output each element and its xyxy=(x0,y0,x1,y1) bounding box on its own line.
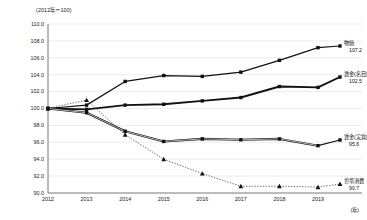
data-point-marker xyxy=(201,75,204,78)
series-end-value: 107.2 xyxy=(344,47,362,54)
data-point-marker xyxy=(85,108,88,111)
x-axis-unit-label: (年) xyxy=(350,206,359,214)
y-axis-tick-label: 104.0 xyxy=(18,72,44,78)
series-end-value: 90.7 xyxy=(344,185,364,192)
series-end-label: 物価107.2 xyxy=(344,40,362,53)
x-axis-tick-label: 2019 xyxy=(301,196,335,202)
series-end-label: 世帯消費90.7 xyxy=(344,178,364,191)
series-end-label: 賃金(名目)102.5 xyxy=(344,71,367,84)
series-4 xyxy=(46,98,343,189)
y-axis-tick-label: 90.0 xyxy=(18,190,44,196)
x-axis-tick-label: 2015 xyxy=(147,196,181,202)
data-point-marker xyxy=(239,70,242,73)
y-axis-tick-label: 106.0 xyxy=(18,55,44,61)
data-point-marker xyxy=(201,137,204,140)
data-point-marker xyxy=(238,184,243,188)
x-axis-tick-label: 2017 xyxy=(224,196,258,202)
data-point-marker xyxy=(201,99,204,102)
data-point-marker xyxy=(162,74,165,77)
series-name: 賃金(実質) xyxy=(344,134,367,141)
data-point-marker xyxy=(84,98,89,102)
data-point-marker xyxy=(162,103,165,106)
end-point-marker xyxy=(338,138,341,141)
series-name: 賃金(名目) xyxy=(344,71,367,78)
end-point-marker xyxy=(338,44,341,47)
series-3 xyxy=(46,107,341,148)
data-point-marker xyxy=(278,137,281,140)
data-point-marker xyxy=(162,140,165,143)
series-end-label: 賃金(実質)95.6 xyxy=(344,134,367,147)
end-point-marker xyxy=(338,182,343,186)
data-point-marker xyxy=(85,103,88,106)
series-1 xyxy=(46,44,341,110)
y-axis-tick-label: 94.0 xyxy=(18,156,44,162)
data-point-marker xyxy=(239,96,242,99)
data-point-marker xyxy=(200,171,205,175)
x-axis-tick-label: 2014 xyxy=(108,196,142,202)
y-axis-tick-label: 92.0 xyxy=(18,173,44,179)
x-axis-tick-label: 2013 xyxy=(70,196,104,202)
data-point-marker xyxy=(278,85,281,88)
series-end-value: 102.5 xyxy=(344,78,367,85)
data-point-marker xyxy=(239,138,242,141)
series-2 xyxy=(46,75,341,111)
data-point-marker xyxy=(85,111,88,114)
y-axis-tick-label: 110.0 xyxy=(18,21,44,27)
y-axis-tick-label: 96.0 xyxy=(18,139,44,145)
y-axis-tick-label: 102.0 xyxy=(18,88,44,94)
y-axis-tick-label: 100.0 xyxy=(18,105,44,111)
series-end-value: 95.6 xyxy=(344,141,367,148)
data-point-marker xyxy=(123,80,126,83)
x-axis-tick-label: 2016 xyxy=(185,196,219,202)
data-point-marker xyxy=(278,59,281,62)
x-axis-tick-label: 2018 xyxy=(262,196,296,202)
end-point-marker xyxy=(338,75,341,78)
x-axis-tick-label: 2012 xyxy=(31,196,65,202)
y-axis-tick-label: 98.0 xyxy=(18,122,44,128)
data-point-marker xyxy=(123,103,126,106)
series-name: 世帯消費 xyxy=(344,178,364,185)
y-axis-tick-label: 108.0 xyxy=(18,38,44,44)
